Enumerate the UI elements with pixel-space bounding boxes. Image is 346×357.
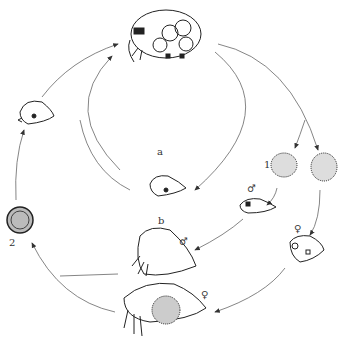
female-symbol-adult: ♀	[201, 290, 208, 300]
arrow-female-juv-to-adult	[215, 268, 285, 312]
arrow-adult-female-to-egg2	[32, 243, 115, 312]
juvenile-left	[18, 101, 54, 124]
life-cycle-diagram: a b 1 2 ♂ ♀ ♂ ♀	[0, 0, 346, 357]
line-male-to-adult-path	[60, 274, 118, 276]
arrow-branch-to-egg1	[295, 120, 305, 148]
egg-1-pair	[271, 153, 337, 181]
arrow-left-juvenile-to-top	[42, 44, 118, 97]
label-egg-2: 2	[9, 238, 15, 248]
arrow-egg2-to-left-juvenile	[16, 130, 24, 200]
arrow-male-juv-to-male-adult	[195, 219, 243, 250]
label-egg-1: 1	[264, 160, 270, 170]
label-cycle-a: a	[157, 147, 163, 157]
male-symbol-juvenile: ♂	[247, 184, 256, 194]
label-cycle-b: b	[158, 216, 164, 226]
arrow-top-to-center	[195, 52, 246, 190]
male-symbol-adult: ♂	[179, 237, 188, 247]
juvenile-center	[150, 176, 186, 196]
arrow-top-to-right-eggs	[218, 44, 318, 150]
adult-female-top	[129, 10, 201, 62]
resting-egg-2	[7, 207, 33, 233]
female-symbol-juvenile: ♀	[294, 224, 301, 234]
diagram-canvas	[0, 0, 346, 357]
juvenile-female	[290, 236, 324, 262]
arc-cycle-b	[80, 120, 130, 190]
adult-female-with-egg	[124, 283, 206, 336]
arrow-inner-a-to-top	[88, 56, 120, 170]
arrow-egg2-to-female	[310, 190, 320, 235]
